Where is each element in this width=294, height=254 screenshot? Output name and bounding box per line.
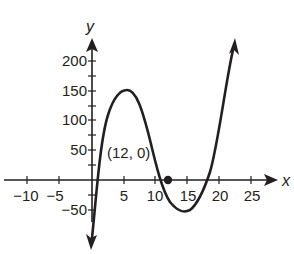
x-tick-label: 20 <box>212 187 229 204</box>
y-tick-label: 100 <box>62 111 87 128</box>
y-tick-label: 150 <box>62 82 87 99</box>
cubic-function-graph: −10 −5 5 10 15 20 25 x 200 150 100 50 −5… <box>0 0 294 254</box>
y-axis: 200 150 100 50 −50 y <box>62 18 98 222</box>
x-tick-label: 5 <box>120 187 128 204</box>
x-tick-label: −10 <box>13 187 38 204</box>
point-label: (12, 0) <box>107 144 150 161</box>
x-tick-label: 15 <box>180 187 197 204</box>
point-12-0: (12, 0) <box>107 144 172 184</box>
x-tick-label: 25 <box>244 187 261 204</box>
x-tick-label: 10 <box>147 187 164 204</box>
curve-end-arrow-up-icon <box>229 38 239 55</box>
x-axis-label: x <box>281 172 291 189</box>
y-tick-label: 200 <box>62 52 87 69</box>
y-tick-label: −50 <box>62 201 87 218</box>
y-tick-label: 50 <box>70 141 87 158</box>
x-axis: −10 −5 5 10 15 20 25 x <box>4 172 291 204</box>
y-axis-label: y <box>85 18 95 35</box>
